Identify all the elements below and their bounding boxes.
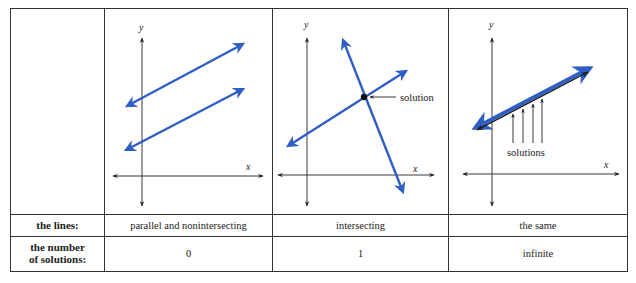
upper-parallel-line	[127, 44, 243, 106]
y-axis-label: y	[138, 22, 144, 33]
x-axis-label: x	[603, 159, 609, 170]
y-axis-label: y	[303, 19, 309, 30]
x-axis-label: x	[412, 163, 418, 174]
negative-slope-line	[343, 40, 403, 192]
solution-point	[361, 94, 367, 100]
x-axis-label: x	[245, 161, 251, 172]
coincident-line-black	[477, 72, 588, 130]
positive-slope-line	[288, 71, 406, 146]
solutions-label: solutions	[507, 147, 545, 158]
graph-parallel: y x	[113, 22, 263, 206]
y-axis-label: y	[488, 19, 494, 30]
solution-label: solution	[400, 92, 435, 103]
graph-intersecting: y x solution	[278, 19, 435, 206]
graph-same: y x solutions	[463, 19, 619, 206]
graphs-layer: y x y x solution y x solutions	[0, 0, 636, 283]
